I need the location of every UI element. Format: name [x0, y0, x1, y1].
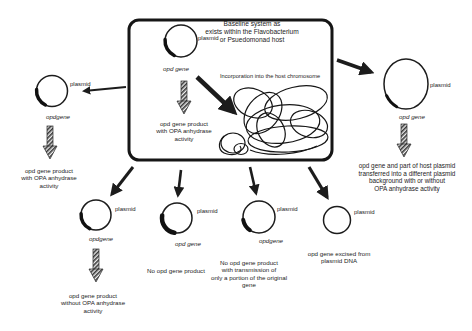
- left-gene-label: opdgene: [30, 113, 86, 120]
- bottom1-gene-label: opdgene: [71, 235, 131, 242]
- bottom3-plasmid-label: plasmid: [277, 206, 298, 212]
- bottom4-product-text: opd gene excised from plasmid DNA: [297, 250, 381, 265]
- incorporation-label: Incorporation into the host chromosome: [210, 73, 330, 80]
- arrow-box-to-bottom-2: [178, 170, 181, 195]
- baseline-product-text: opd gene product with OPA anhydrase acti…: [148, 120, 220, 142]
- baseline-gene-label: opd gene: [146, 65, 206, 72]
- arrow-box-to-bottom-4: [309, 167, 327, 197]
- striped-arrow-left: [43, 126, 57, 159]
- bottom4-plasmid-label: plasmid: [354, 209, 375, 215]
- bottom3-product-text: No opd gene product with transmission of…: [203, 259, 295, 289]
- right-product-text: opd gene and part of host plasmid transf…: [345, 162, 469, 193]
- bottom1-product-text: opd gene product without OPA anhydrase a…: [53, 292, 133, 314]
- baseline-plasmid-label: plasmid: [198, 35, 219, 41]
- right-plasmid-label: plasmid: [430, 82, 451, 88]
- striped-arrow-right: [397, 124, 411, 157]
- arrow-box-to-left-plasmid: [84, 87, 126, 91]
- arrow-box-to-right-plasmid: [337, 60, 371, 72]
- left-product-text: opd gene product with OPA anhydrase acti…: [12, 167, 86, 189]
- arrow-box-to-bottom-3: [250, 167, 256, 193]
- striped-arrow-bottom-1: [89, 249, 103, 282]
- arrow-box-to-bottom-1: [112, 167, 133, 194]
- figure-canvas: Baseline system as exists within the Fla…: [0, 0, 472, 331]
- bottom2-gene-label: opd gene: [158, 240, 218, 247]
- bottom2-plasmid-label: plasmid: [197, 208, 218, 214]
- plasmid-circle-bottom-4: [324, 207, 351, 234]
- bottom3-gene-label: opdgene: [241, 237, 301, 244]
- bottom1-plasmid-label: plasmid: [115, 206, 136, 212]
- left-plasmid-label: plasmid: [70, 81, 91, 87]
- right-gene-label: opd gene: [382, 113, 442, 120]
